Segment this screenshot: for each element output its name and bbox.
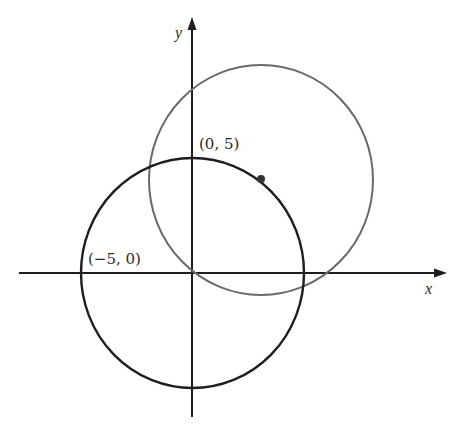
- y-axis-arrow-icon: [188, 17, 197, 30]
- coordinate-diagram: (0, 5) (−5, 0) y x: [0, 0, 453, 432]
- label-point-0-5: (0, 5): [199, 135, 239, 153]
- diagram-canvas: (0, 5) (−5, 0) y x: [0, 0, 453, 432]
- label-point-neg5-0: (−5, 0): [88, 250, 141, 268]
- y-axis-label: y: [173, 24, 183, 42]
- x-axis-arrow-icon: [434, 269, 447, 278]
- x-axis-label: x: [424, 280, 432, 297]
- marked-point: [257, 175, 265, 183]
